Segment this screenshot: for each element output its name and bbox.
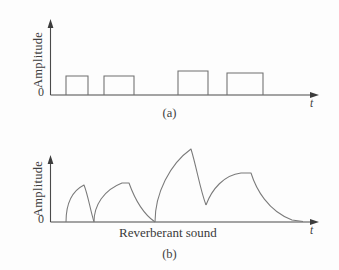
panel-a-bar-4 bbox=[227, 73, 263, 95]
panel-a-caption: (a) bbox=[0, 106, 339, 121]
panel-b-inner-annotation: Reverberant sound bbox=[119, 225, 217, 241]
panel-b-zero-tick-label: 0 bbox=[38, 212, 44, 227]
panel-b-pulse-3 bbox=[155, 149, 206, 222]
panel-b: Amplitude 0 t Reverberant sound (b) bbox=[0, 133, 339, 270]
panel-b-pulse-1 bbox=[66, 185, 94, 222]
panel-a-zero-tick-label: 0 bbox=[38, 85, 44, 100]
figure-container: Amplitude 0 t (a) Amplitude 0 t Reverber… bbox=[0, 0, 339, 270]
panel-a-bar-2 bbox=[104, 76, 134, 95]
panel-b-caption: (b) bbox=[0, 247, 339, 262]
panel-a-bar-3 bbox=[178, 71, 208, 95]
panel-b-y-axis-label: Amplitude bbox=[31, 161, 46, 217]
panel-a-y-axis-label: Amplitude bbox=[31, 32, 46, 88]
panel-b-pulse-2 bbox=[94, 183, 155, 222]
panel-a: Amplitude 0 t (a) bbox=[0, 0, 339, 135]
panel-b-x-axis-label: t bbox=[310, 224, 313, 236]
panel-b-pulse-4 bbox=[206, 173, 303, 222]
panel-b-y-axis-arrow-icon bbox=[48, 155, 54, 164]
panel-a-y-axis-arrow-icon bbox=[48, 19, 54, 28]
panel-a-bar-1 bbox=[66, 76, 88, 95]
